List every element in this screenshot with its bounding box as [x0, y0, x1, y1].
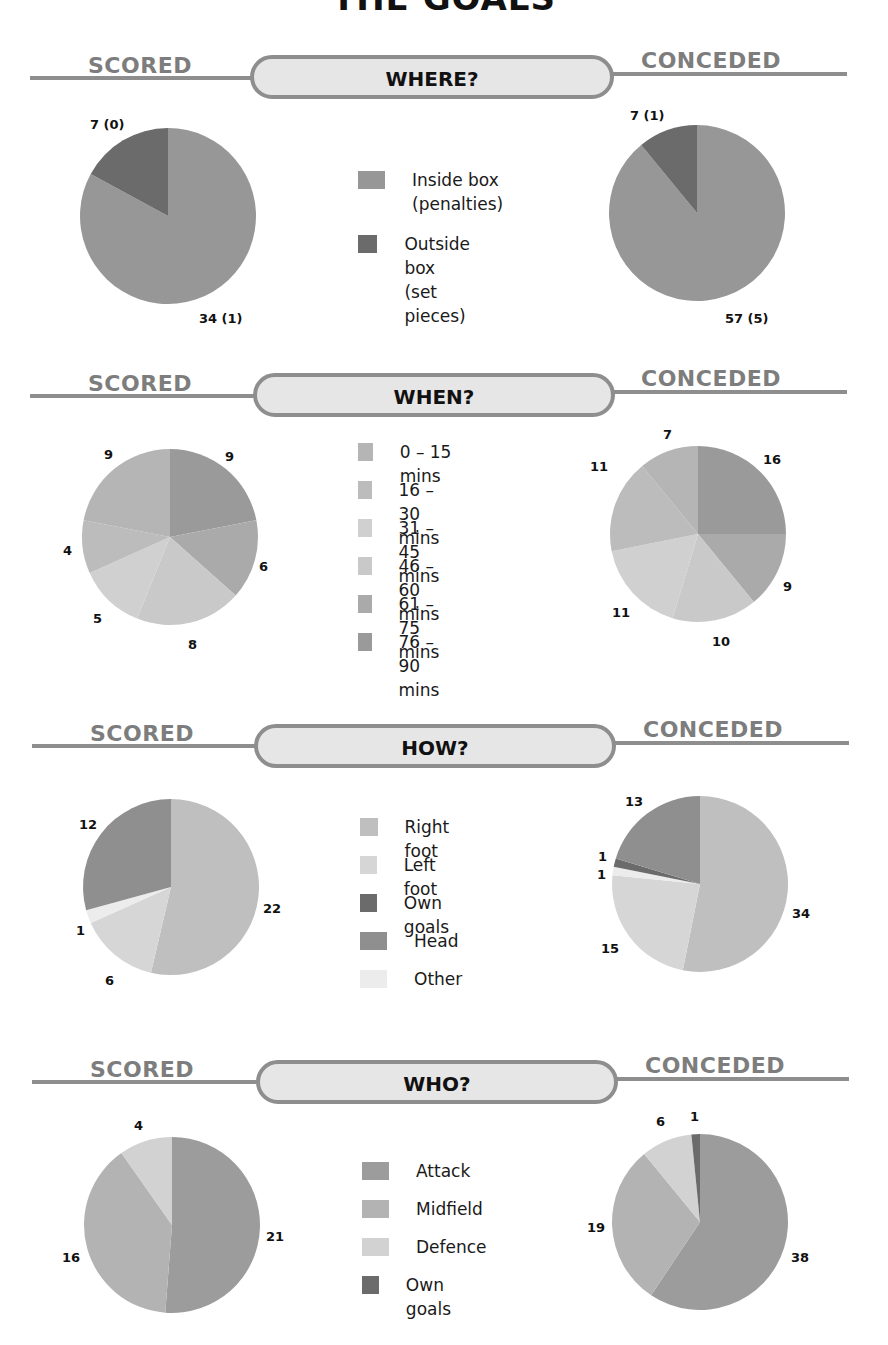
pie-conceded	[609, 125, 785, 301]
legend-label: Head	[414, 929, 458, 953]
pie-label: 16	[62, 1250, 80, 1265]
conceded-label: CONCEDED	[643, 717, 783, 742]
legend-label: Own goals	[406, 1273, 461, 1321]
pie-label: 6	[656, 1114, 665, 1129]
section-heading: WHEN?	[253, 373, 615, 417]
pie-label: 19	[587, 1220, 605, 1235]
legend-swatch	[360, 970, 387, 988]
pie-label: 1	[597, 867, 606, 882]
legend-swatch	[358, 519, 372, 537]
pie-label: 7 (0)	[90, 117, 125, 132]
pie-label: 16	[763, 452, 781, 467]
pie-label: 34	[792, 906, 810, 921]
legend-swatch	[362, 1162, 389, 1180]
scored-label: SCORED	[88, 53, 192, 78]
section-heading: WHERE?	[250, 55, 614, 99]
pie-label: 11	[590, 459, 608, 474]
legend-swatch	[358, 557, 372, 575]
pie-label: 1	[598, 849, 607, 864]
pie-label: 6	[259, 559, 268, 574]
legend-item: Other	[360, 967, 462, 991]
legend-swatch	[358, 595, 372, 613]
pie-label: 1	[690, 1109, 699, 1124]
pie-label: 21	[266, 1229, 284, 1244]
section-heading: WHO?	[256, 1060, 618, 1104]
legend-label: Inside box (penalties)	[412, 168, 503, 216]
legend-item: Attack	[362, 1159, 470, 1183]
legend-swatch	[358, 481, 372, 499]
banner-how: SCORED CONCEDED HOW?	[0, 716, 888, 766]
pie-label: 4	[134, 1118, 143, 1133]
pie-label: 13	[625, 794, 643, 809]
page-title: THE GOALS	[0, 0, 888, 18]
pie-scored	[80, 128, 256, 304]
legend-label: Attack	[416, 1159, 470, 1183]
legend-swatch	[358, 235, 377, 253]
pie-label: 10	[712, 634, 730, 649]
section-when: SCORED CONCEDED WHEN? 0 – 15 mins16 – 30…	[0, 368, 888, 668]
pie-label: 1	[76, 923, 85, 938]
legend-label: Defence	[416, 1235, 487, 1259]
scored-label: SCORED	[90, 1057, 194, 1082]
pie-label: 34 (1)	[199, 311, 243, 326]
pie-label: 12	[79, 817, 97, 832]
pie-label: 8	[188, 637, 197, 652]
legend-item: Inside box (penalties)	[358, 168, 503, 216]
legend-label: 76 – 90 mins	[399, 630, 453, 702]
section-how: SCORED CONCEDED HOW? Right footLeft foot…	[0, 716, 888, 1006]
legend-swatch	[358, 633, 372, 651]
legend-swatch	[358, 443, 373, 461]
pie-slice	[165, 1137, 260, 1313]
conceded-label: CONCEDED	[641, 48, 781, 73]
pie-label: 6	[105, 973, 114, 988]
pie-scored	[84, 1137, 260, 1313]
legend-swatch	[362, 1238, 389, 1256]
legend-swatch	[360, 818, 378, 836]
pie-label: 7	[663, 427, 672, 442]
legend-item: Own goals	[362, 1273, 461, 1321]
pie-label: 7 (1)	[630, 108, 665, 123]
pie-label: 22	[263, 901, 281, 916]
section-where: SCORED CONCEDED WHERE? Inside box (penal…	[0, 50, 888, 340]
pie-label: 4	[63, 543, 72, 558]
legend-swatch	[360, 856, 377, 874]
banner-who: SCORED CONCEDED WHO?	[0, 1052, 888, 1102]
scored-label: SCORED	[90, 721, 194, 746]
pie-label: 9	[225, 449, 234, 464]
pie-conceded	[612, 1134, 788, 1310]
pie-label: 9	[783, 579, 792, 594]
pie-scored	[82, 449, 258, 625]
scored-label: SCORED	[88, 371, 192, 396]
legend-item: Outside box (set pieces)	[358, 232, 478, 328]
legend-swatch	[360, 932, 387, 950]
section-heading: HOW?	[254, 724, 616, 768]
legend-label: Other	[414, 967, 462, 991]
pie-label: 15	[601, 941, 619, 956]
pie-label: 9	[104, 447, 113, 462]
legend-item: Head	[360, 929, 458, 953]
banner-when: SCORED CONCEDED WHEN?	[0, 368, 888, 418]
legend-swatch	[362, 1276, 379, 1294]
legend-label: Outside box (set pieces)	[404, 232, 477, 328]
legend-label: Midfield	[416, 1197, 483, 1221]
pie-label: 5	[93, 611, 102, 626]
banner-where: SCORED CONCEDED WHERE?	[0, 50, 888, 100]
legend-swatch	[358, 171, 385, 189]
legend-swatch	[360, 894, 377, 912]
pie-label: 57 (5)	[725, 311, 769, 326]
legend-item: 76 – 90 mins	[358, 630, 453, 702]
section-who: SCORED CONCEDED WHO? AttackMidfieldDefen…	[0, 1052, 888, 1345]
legend-item: Midfield	[362, 1197, 483, 1221]
legend-item: Defence	[362, 1235, 487, 1259]
conceded-label: CONCEDED	[641, 366, 781, 391]
pie-scored	[83, 799, 259, 975]
pie-label: 38	[791, 1250, 809, 1265]
conceded-label: CONCEDED	[645, 1053, 785, 1078]
pie-label: 11	[612, 605, 630, 620]
legend-swatch	[362, 1200, 389, 1218]
pie-conceded	[610, 446, 786, 622]
pie-conceded	[612, 796, 788, 972]
